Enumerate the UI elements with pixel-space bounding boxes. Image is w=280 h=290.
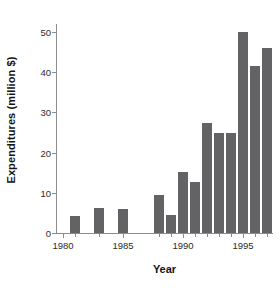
plot-area — [57, 24, 273, 233]
x-tick-mark — [243, 234, 244, 238]
x-tick-label: 1990 — [172, 240, 193, 251]
y-tick-mark — [52, 32, 56, 33]
y-tick-label: 0 — [22, 228, 55, 239]
y-tick-mark — [52, 72, 56, 73]
bar — [70, 216, 79, 233]
bar — [214, 133, 223, 233]
y-axis-title: Expenditures (million $) — [0, 0, 22, 240]
bar — [154, 195, 163, 233]
y-axis-title-text: Expenditures (million $) — [5, 56, 17, 183]
x-axis-title: Year — [56, 263, 273, 275]
y-tick-label: 40 — [22, 67, 55, 78]
y-tick-label: 20 — [22, 147, 55, 158]
bar — [238, 32, 247, 233]
bar — [250, 66, 259, 233]
x-tick-mark-minor — [195, 234, 196, 237]
x-tick-mark — [183, 234, 184, 238]
y-tick-mark — [52, 112, 56, 113]
bar — [94, 208, 103, 233]
x-tick-mark-minor — [159, 234, 160, 237]
x-tick-mark — [63, 234, 64, 238]
bar — [118, 209, 127, 233]
bar — [166, 215, 175, 233]
x-tick-mark — [123, 234, 124, 238]
x-tick-label: 1980 — [52, 240, 73, 251]
x-tick-mark-minor — [171, 234, 172, 237]
y-tick-mark — [52, 153, 56, 154]
y-tick-label: 30 — [22, 107, 55, 118]
x-tick-mark-minor — [219, 234, 220, 237]
x-tick-mark-minor — [75, 234, 76, 237]
x-tick-label: 1985 — [112, 240, 133, 251]
bar — [178, 172, 187, 233]
y-tick-label: 10 — [22, 187, 55, 198]
y-tick-mark — [52, 193, 56, 194]
y-axis-tick-labels: 01020304050 — [22, 0, 55, 290]
x-tick-mark-minor — [207, 234, 208, 237]
y-tick-label: 50 — [22, 27, 55, 38]
y-tick-mark — [52, 233, 56, 234]
bar — [202, 123, 211, 233]
x-tick-label: 1995 — [232, 240, 253, 251]
bar — [190, 182, 199, 233]
bar — [262, 48, 271, 233]
x-tick-mark-minor — [231, 234, 232, 237]
bar — [226, 133, 235, 233]
x-tick-mark-minor — [255, 234, 256, 237]
x-tick-mark-minor — [267, 234, 268, 237]
bar-chart-figure: Expenditures (million $) 01020304050 Yea… — [0, 0, 280, 290]
x-tick-mark-minor — [99, 234, 100, 237]
x-axis-line — [56, 233, 273, 234]
